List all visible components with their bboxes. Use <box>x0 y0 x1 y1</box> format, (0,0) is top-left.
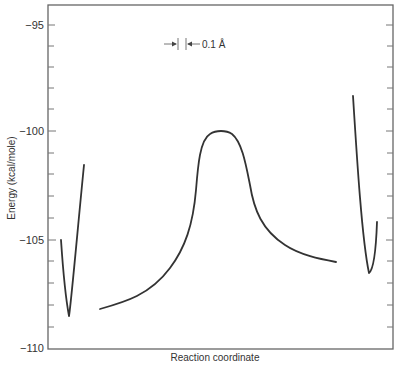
barrier-curve <box>100 131 336 309</box>
left-axis-ticks <box>48 25 56 327</box>
ytick-label: −95 <box>25 19 44 31</box>
reaction-energy-chart: −95 −100 −105 −110 Energy (kcal/mole) Re… <box>0 0 399 367</box>
right-axis-ticks <box>386 25 393 327</box>
y-tick-labels: −95 −100 −105 −110 <box>19 19 44 354</box>
ytick-label: −100 <box>19 125 44 137</box>
left-well-curve <box>61 165 84 316</box>
right-well-curve <box>353 96 377 273</box>
ytick-label: −105 <box>19 234 44 246</box>
y-axis-label: Energy (kcal/mole) <box>6 136 17 219</box>
plot-frame <box>48 5 393 349</box>
x-axis-label: Reaction coordinate <box>171 352 260 363</box>
ytick-label: −110 <box>20 342 44 354</box>
scale-bar-label: 0.1 Å <box>202 38 226 50</box>
scale-bar-annotation: 0.1 Å <box>164 38 226 50</box>
